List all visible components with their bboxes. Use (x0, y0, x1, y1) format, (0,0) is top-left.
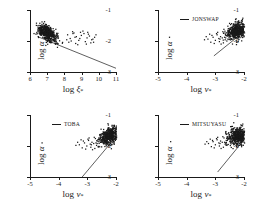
x-axis-label: log ν* (158, 189, 244, 199)
legend-line-swatch (180, 19, 189, 20)
x-tick-label: -3 (85, 181, 90, 188)
y-axis-label: log α (164, 42, 174, 61)
x-tick-label: 6 (28, 76, 31, 83)
x-tick-label: -5 (155, 76, 160, 83)
y-axis-label: log α (164, 147, 174, 166)
fit-line (82, 137, 116, 177)
data-cluster (96, 123, 117, 149)
x-tick-label: -2 (241, 76, 246, 83)
legend-label: TOBA (64, 121, 80, 127)
plot-area: -1-2-3-5-4-3-2MITSUYASUlog ν*log α (158, 115, 244, 177)
legend: TOBA (52, 121, 80, 127)
x-tick-label: 11 (113, 76, 119, 83)
data-cluster (223, 18, 246, 46)
x-tick-label: 9 (80, 76, 83, 83)
x-tick-label: -5 (27, 181, 32, 188)
panel-top-left: -1-2-367891011log ξ*log α (0, 0, 128, 105)
x-tick-label: -4 (56, 181, 61, 188)
fit-line (218, 140, 244, 172)
plot-area: -1-2-367891011log ξ*log α (30, 10, 116, 72)
panel-top-right: -1-2-3-5-4-3-2JONSWAPlog ν*log α (128, 0, 256, 105)
figure-panel-grid: -1-2-367891011log ξ*log α-1-2-3-5-4-3-2J… (0, 0, 257, 211)
fit-line (38, 37, 116, 69)
x-tick-label: -3 (213, 181, 218, 188)
legend-label: JONSWAP (192, 16, 219, 22)
data-cluster (225, 122, 245, 149)
sparse-points (66, 30, 96, 45)
sparse-points (41, 137, 100, 151)
y-axis-label: log α (36, 42, 46, 61)
x-axis-label: log ν* (158, 84, 244, 94)
x-axis-label: log ξ* (30, 84, 116, 94)
legend-label: MITSUYASU (192, 121, 226, 127)
sparse-points (169, 31, 229, 45)
legend-line-swatch (52, 124, 61, 125)
legend: MITSUYASU (180, 121, 226, 127)
x-tick-label: -2 (241, 181, 246, 188)
x-tick-label: -2 (113, 181, 118, 188)
plot-area: -1-2-3-5-4-3-2TOBAlog ν*log α (30, 115, 116, 177)
x-tick-label: -3 (213, 76, 218, 83)
x-tick-label: 7 (46, 76, 49, 83)
plot-area: -1-2-3-5-4-3-2JONSWAPlog ν*log α (158, 10, 244, 72)
panel-bottom-right: -1-2-3-5-4-3-2MITSUYASUlog ν*log α (128, 105, 256, 210)
x-tick-label: 8 (63, 76, 66, 83)
legend-line-swatch (180, 124, 189, 125)
x-tick-label: -5 (155, 181, 160, 188)
sparse-points (170, 136, 229, 149)
y-axis-label: log α (36, 147, 46, 166)
x-tick-label: -4 (184, 181, 189, 188)
x-axis-label: log ν* (30, 189, 116, 199)
x-tick-label: -4 (184, 76, 189, 83)
legend: JONSWAP (180, 16, 219, 22)
panel-bottom-left: -1-2-3-5-4-3-2TOBAlog ν*log α (0, 105, 128, 210)
x-tick-label: 10 (96, 76, 103, 83)
